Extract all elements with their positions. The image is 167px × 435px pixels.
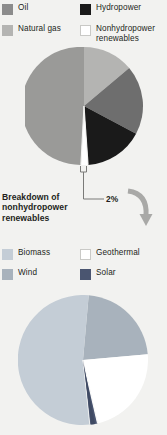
pie-slice-biomass <box>18 295 90 425</box>
legend-swatch-icon <box>80 269 91 280</box>
legend-swatch-icon <box>80 249 91 260</box>
legend-item-wind: Wind <box>2 268 37 280</box>
pie-slice-wind <box>83 295 148 360</box>
legend-label: Biomass <box>18 248 50 258</box>
legend-item-solar: Solar <box>80 268 116 280</box>
callout-percent-label: 2% <box>106 194 118 204</box>
section-heading: Breakdown of nonhydropower renewables <box>2 192 68 223</box>
nonhydro-renewables-pie <box>18 295 148 425</box>
legend-label: Geothermal <box>96 248 140 258</box>
legend-label: Wind <box>18 268 37 278</box>
figure-root: Oil Hydropower Natural gas Nonhydropower… <box>0 0 167 435</box>
legend-label: Solar <box>96 268 116 278</box>
legend-swatch-icon <box>2 249 13 260</box>
legend-item-geothermal: Geothermal <box>80 248 140 260</box>
legend-swatch-icon <box>2 269 13 280</box>
legend-item-biomass: Biomass <box>2 248 50 260</box>
